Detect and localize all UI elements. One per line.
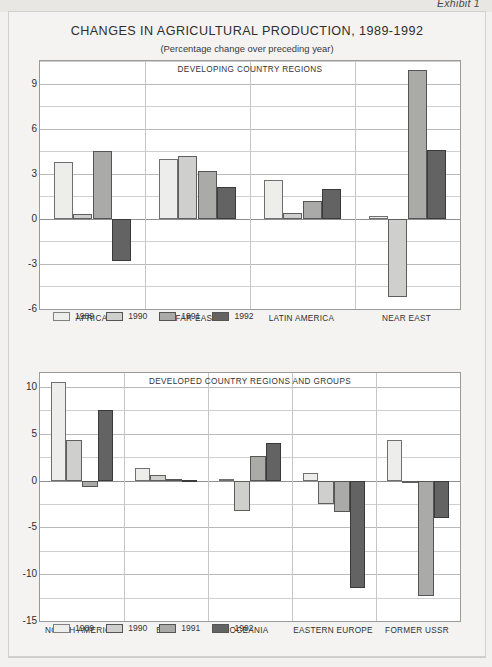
legend-label: 1992 xyxy=(234,311,253,321)
y-axis-tick-label: 3 xyxy=(11,167,37,178)
bar xyxy=(318,481,334,504)
legend-entry: 1990 xyxy=(106,623,147,633)
chart-sheet: CHANGES IN AGRICULTURAL PRODUCTION, 1989… xyxy=(8,11,486,657)
y-axis-tick-label: 9 xyxy=(11,77,37,88)
y-axis-tick-label: 5 xyxy=(11,427,37,438)
bar xyxy=(135,468,151,480)
bar xyxy=(387,440,403,480)
legend-swatch-icon xyxy=(212,312,229,321)
legend-entry: 1992 xyxy=(212,623,253,633)
bar xyxy=(178,156,197,219)
chart-developing-country-regions: 9630-3-6 DEVELOPING COUNTRY REGIONS 1989… xyxy=(9,52,485,337)
chart1-title: DEVELOPING COUNTRY REGIONS xyxy=(40,65,460,74)
chart2-title: DEVELOPED COUNTRY REGIONS AND GROUPS xyxy=(40,377,460,386)
bar xyxy=(73,214,92,219)
bar xyxy=(166,479,182,481)
legend-label: 1992 xyxy=(234,623,253,633)
y-axis-tick-label: -6 xyxy=(11,303,37,314)
bar xyxy=(250,456,266,480)
bar xyxy=(264,180,283,219)
plot-area-chart2: DEVELOPED COUNTRY REGIONS AND GROUPS xyxy=(39,372,461,622)
legend-swatch-icon xyxy=(53,624,70,633)
grid-line xyxy=(40,309,460,310)
bar xyxy=(266,443,282,480)
grid-line xyxy=(40,527,460,528)
bar xyxy=(54,162,73,219)
category-label: NEAR EAST xyxy=(382,314,431,323)
bar xyxy=(303,473,319,480)
bar xyxy=(182,480,198,482)
y-axis-tick-label: 0 xyxy=(11,474,37,485)
legend-label: 1991 xyxy=(181,311,200,321)
legend-swatch-icon xyxy=(106,312,123,321)
bar xyxy=(303,201,322,219)
grid-line xyxy=(40,598,460,599)
legend-entry: 1991 xyxy=(159,311,200,321)
page-title: CHANGES IN AGRICULTURAL PRODUCTION, 1989… xyxy=(9,24,485,38)
y-axis-tick-label: 10 xyxy=(11,381,37,392)
y-axis-tick-label: -10 xyxy=(11,568,37,579)
legend-entry: 1992 xyxy=(212,311,253,321)
category-label: FORMER USSR xyxy=(385,626,449,635)
y-axis-tick-label: -15 xyxy=(11,615,37,626)
plot-area-chart1: DEVELOPING COUNTRY REGIONS xyxy=(39,60,461,310)
bar xyxy=(198,171,217,219)
bar xyxy=(112,219,131,261)
grid-line xyxy=(40,387,460,388)
exhibit-label: Exhibit 1 xyxy=(437,0,480,9)
y-axis-tick-label: 6 xyxy=(11,122,37,133)
y-axis-chart2: 1050-5-10-15 xyxy=(9,372,37,620)
bar xyxy=(402,481,418,483)
bar xyxy=(66,440,82,480)
bar xyxy=(98,410,114,480)
bar xyxy=(234,481,250,511)
legend-chart1: 1989199019911992 xyxy=(53,311,266,321)
bar xyxy=(350,481,366,589)
bar xyxy=(283,213,302,219)
grid-line xyxy=(40,621,460,622)
group-separator xyxy=(292,373,293,621)
group-separator xyxy=(208,373,209,621)
group-separator xyxy=(355,61,356,309)
legend-label: 1990 xyxy=(128,311,147,321)
legend-label: 1989 xyxy=(75,623,94,633)
zero-line xyxy=(40,481,460,482)
bar xyxy=(159,159,178,219)
bar xyxy=(427,150,446,219)
category-label: EASTERN EUROPE xyxy=(293,626,373,635)
legend-swatch-icon xyxy=(212,624,229,633)
group-separator xyxy=(145,61,146,309)
grid-line xyxy=(40,504,460,505)
bar xyxy=(150,475,166,481)
legend-swatch-icon xyxy=(53,312,70,321)
legend-entry: 1991 xyxy=(159,623,200,633)
bar xyxy=(93,151,112,219)
group-separator xyxy=(124,373,125,621)
group-separator xyxy=(376,373,377,621)
legend-label: 1991 xyxy=(181,623,200,633)
legend-swatch-icon xyxy=(159,624,176,633)
bar xyxy=(369,216,388,219)
bar xyxy=(434,481,450,518)
legend-label: 1990 xyxy=(128,623,147,633)
bar xyxy=(388,219,407,297)
grid-line xyxy=(40,551,460,552)
bar xyxy=(418,481,434,596)
bar xyxy=(82,481,98,488)
y-axis-chart1: 9630-3-6 xyxy=(9,60,37,308)
bar xyxy=(219,479,235,481)
bar xyxy=(51,382,67,480)
bar xyxy=(322,189,341,219)
bar xyxy=(408,70,427,219)
group-separator xyxy=(250,61,251,309)
grid-line xyxy=(40,574,460,575)
exhibit-page: Exhibit 1 CHANGES IN AGRICULTURAL PRODUC… xyxy=(0,0,492,667)
legend-label: 1989 xyxy=(75,311,94,321)
y-axis-tick-label: 0 xyxy=(11,212,37,223)
legend-swatch-icon xyxy=(106,624,123,633)
legend-swatch-icon xyxy=(159,312,176,321)
legend-entry: 1989 xyxy=(53,623,94,633)
legend-entry: 1990 xyxy=(106,311,147,321)
legend-chart2: 1989199019911992 xyxy=(53,623,266,633)
y-axis-tick-label: -5 xyxy=(11,521,37,532)
